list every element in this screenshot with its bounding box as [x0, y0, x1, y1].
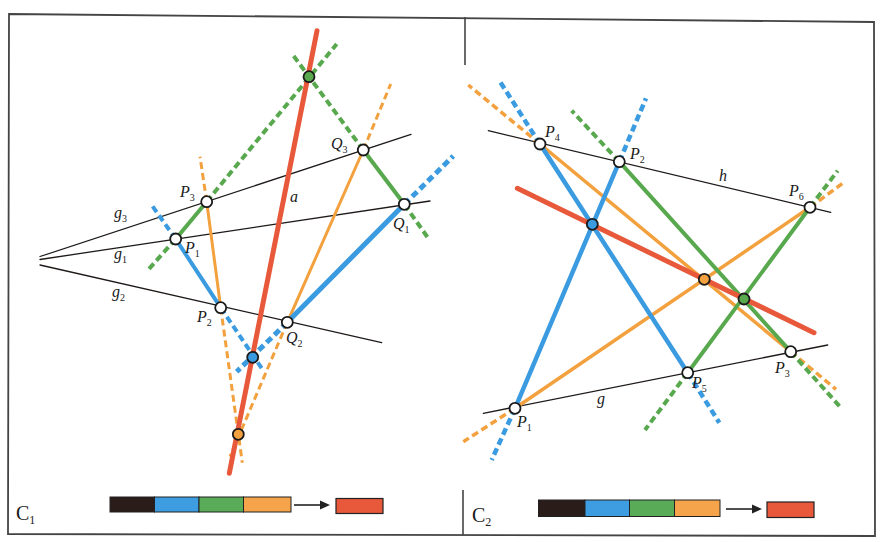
- line-orange-p3-p2-dashed-extension: [200, 157, 207, 202]
- label-p2: P2: [629, 145, 645, 165]
- panel-c1-title: C1: [16, 502, 35, 527]
- label-g3: g3: [114, 204, 127, 224]
- line-green-p2-p3-dashed-extension: [791, 352, 840, 407]
- line-orange-q3-q2-dashed-extension: [363, 84, 390, 150]
- label-p4: P4: [544, 123, 560, 143]
- label-main: P: [196, 308, 207, 325]
- line-orange-q3-q2: [230, 84, 391, 457]
- label-main: Q: [286, 329, 298, 346]
- line-red-a-solid: [229, 31, 317, 474]
- label-main: a: [290, 188, 298, 205]
- panel-c2-title-sub: 2: [485, 515, 491, 529]
- label-main: P: [629, 145, 640, 162]
- label-main: Q: [393, 215, 405, 232]
- label-subscript: 2: [207, 317, 212, 328]
- legend-swatch-orange: [244, 497, 292, 512]
- line-g: [483, 345, 827, 413]
- line-blue-q2-q1-dashed-extension: [237, 322, 288, 371]
- legend-swatch-black: [539, 500, 586, 517]
- legend-arrow-icon: [752, 505, 762, 514]
- panel-c1-title-main: C: [16, 502, 29, 524]
- legend-swatch-orange: [675, 500, 721, 517]
- label-a: a: [290, 188, 298, 205]
- legend-swatch-black: [110, 497, 155, 512]
- panel-c2-title: C2: [472, 504, 491, 529]
- point-orange-intersection: [233, 429, 244, 440]
- label-subscript: 3: [343, 144, 348, 155]
- point-p4: [535, 139, 546, 150]
- panel-c2-points: [510, 139, 816, 414]
- label-p3: P3: [179, 183, 195, 203]
- label-g2: g2: [112, 283, 125, 303]
- point-blue-intersection: [247, 352, 258, 363]
- label-subscript: 2: [120, 292, 125, 303]
- point-blue-intersection: [587, 219, 598, 230]
- label-main: P: [788, 182, 799, 199]
- legend-arrow-icon: [320, 501, 330, 510]
- label-p1: P1: [516, 413, 532, 433]
- label-main: g: [114, 204, 122, 222]
- label-g: g: [597, 390, 605, 408]
- panel-c2-color-legend: [539, 500, 815, 518]
- point-q3: [358, 145, 369, 156]
- point-q2: [282, 317, 293, 328]
- figure-frame-layer: [8, 14, 875, 536]
- point-green-intersection: [304, 71, 315, 82]
- point-green-intersection: [739, 294, 750, 305]
- label-p3: P3: [774, 359, 790, 379]
- panel-c1: P3P1P2Q3Q1Q2ag3g1g2 C1: [16, 31, 453, 527]
- line-green-p5-p6-dashed-extension: [810, 171, 838, 208]
- label-subscript: 5: [702, 383, 707, 394]
- line-blue-p1-p2: [152, 205, 262, 368]
- label-subscript: 1: [122, 254, 127, 265]
- label-subscript: 4: [555, 132, 560, 143]
- label-q2: Q2: [286, 329, 303, 349]
- line-blue-q2-q1-dashed-extension: [404, 156, 453, 204]
- label-main: g: [597, 390, 605, 408]
- point-p2: [215, 302, 226, 313]
- panel-c2-labels: P4P2hP6P3P5P1g: [516, 123, 804, 433]
- label-p5: P5: [691, 374, 707, 394]
- figure-frame: [8, 14, 875, 536]
- line-orange-p1-p6: [463, 183, 842, 441]
- diagram-canvas: P3P1P2Q3Q1Q2ag3g1g2 C1 P4P2hP6P3P5P1g C2: [0, 0, 883, 542]
- legend-swatch-green: [630, 500, 675, 517]
- label-q3: Q3: [331, 135, 348, 155]
- point-p2: [614, 156, 625, 167]
- point-q1: [399, 199, 410, 210]
- legend-swatch-blue: [155, 497, 200, 512]
- label-h: h: [719, 167, 727, 184]
- line-g3: [40, 134, 411, 256]
- line-g1: [40, 201, 430, 260]
- line-orange-p4-p3-dashed-extension: [791, 352, 836, 390]
- legend-swatch-green: [199, 497, 244, 512]
- label-subscript: 2: [298, 338, 303, 349]
- label-subscript: 3: [785, 368, 790, 379]
- label-main: P: [516, 413, 527, 430]
- panel-c2-lines: [463, 82, 842, 460]
- label-main: g: [112, 283, 120, 301]
- line-green-p2-p3-dashed-extension: [572, 111, 620, 162]
- line-blue-q2-q1-solid: [287, 204, 404, 322]
- label-subscript: 3: [122, 213, 127, 224]
- label-g1: g1: [114, 245, 127, 265]
- panel-c1-color-legend: [110, 497, 383, 514]
- label-q1: Q1: [393, 215, 410, 235]
- line-g-solid: [483, 345, 827, 413]
- point-p1: [170, 234, 181, 245]
- label-main: P: [184, 239, 195, 256]
- line-g1-solid: [40, 201, 430, 260]
- panel-c1-lines: [40, 31, 453, 474]
- label-main: h: [719, 167, 727, 184]
- label-subscript: 6: [799, 191, 804, 202]
- label-main: Q: [331, 135, 343, 152]
- panel-c1-title-sub: 1: [29, 513, 35, 527]
- label-main: P: [774, 359, 785, 376]
- line-g3-solid: [40, 134, 411, 256]
- label-subscript: 2: [640, 154, 645, 165]
- label-main: P: [179, 183, 190, 200]
- line-orange-p4-p3-dashed-extension: [468, 85, 540, 144]
- label-subscript: 1: [405, 224, 410, 235]
- legend-result-swatch-red: [336, 499, 383, 514]
- label-subscript: 1: [527, 422, 532, 433]
